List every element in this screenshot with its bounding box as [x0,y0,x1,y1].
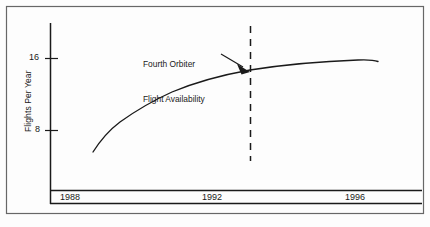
annotation-arrow-shaft [221,54,243,67]
x-tick-label-1992: 1992 [202,192,222,203]
figure-border [7,7,424,214]
chart-figure: Flights Per Year 16 8 1988 1992 1996 Fou… [0,0,430,227]
y-tick-label-8: 8 [35,124,40,135]
annotation-line-1: Fourth Orbiter [143,59,205,71]
annotation-line-2: Flight Availability [143,94,205,106]
flights-per-year-curve [93,60,378,152]
y-axis-label: Flights Per Year [23,51,33,151]
fourth-orbiter-annotation: Fourth Orbiter Flight Availability [143,36,205,128]
y-tick-label-16: 16 [29,52,39,63]
x-tick-label-1988: 1988 [60,192,80,203]
x-tick-label-1996: 1996 [345,192,365,203]
annotation-arrow-head [237,64,250,75]
